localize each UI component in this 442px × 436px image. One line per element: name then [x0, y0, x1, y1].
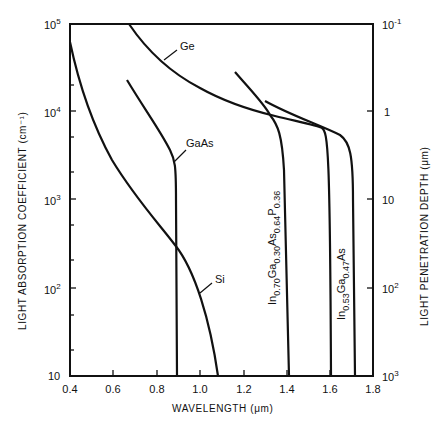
svg-text:1.4: 1.4: [279, 383, 294, 395]
svg-text:10-1: 10-1: [382, 17, 402, 31]
bottom-tick-labels: 0.4 0.6 0.8 1.0 1.2 1.4 1.6 1.8: [62, 383, 380, 395]
si-leader: [200, 283, 212, 293]
y-axis-title: LIGHT ABSORPTION COEFFICIENT (cm⁻¹): [17, 112, 28, 330]
svg-text:0.6: 0.6: [105, 383, 120, 395]
label-ingaasp: In0.70Ga0.30As0.64P0.36: [266, 191, 282, 305]
svg-text:10: 10: [48, 370, 60, 382]
y2-axis-title: LIGHT PENETRATION DEPTH (μm): [419, 147, 430, 326]
svg-text:0.8: 0.8: [149, 383, 164, 395]
curve-gaas: [127, 80, 177, 376]
svg-text:0.4: 0.4: [62, 383, 77, 395]
svg-text:1.6: 1.6: [322, 383, 337, 395]
curve-si: [70, 42, 218, 376]
left-tick-labels: 105 104 103 102 10: [44, 17, 61, 382]
plot-frame: [70, 24, 373, 376]
svg-text:105: 105: [44, 17, 61, 31]
svg-text:104: 104: [44, 105, 61, 119]
label-ge: Ge: [180, 40, 195, 52]
curve-ge: [129, 24, 331, 376]
svg-text:1.2: 1.2: [236, 383, 251, 395]
svg-text:1: 1: [384, 106, 390, 118]
svg-text:102: 102: [44, 282, 61, 296]
svg-text:1.0: 1.0: [192, 383, 207, 395]
gaas-leader: [174, 150, 186, 162]
label-si: Si: [215, 273, 225, 285]
svg-text:10: 10: [382, 194, 394, 206]
right-tick-labels: 10-1 1 10 102 103: [382, 17, 402, 383]
svg-text:102: 102: [382, 281, 399, 295]
curve-ingaas: [265, 101, 355, 376]
x-axis-title: WAVELENGTH (μm): [172, 403, 273, 414]
ge-leader: [164, 50, 177, 60]
svg-text:103: 103: [382, 369, 399, 383]
absorption-chart: 105 104 103 102 10 10-1 1 10 102 103 0.4…: [0, 0, 442, 436]
label-gaas: GaAs: [186, 137, 214, 149]
svg-text:103: 103: [44, 193, 61, 207]
label-ingaas: In0.53Ga0.47As: [335, 248, 351, 320]
svg-text:1.8: 1.8: [365, 383, 380, 395]
